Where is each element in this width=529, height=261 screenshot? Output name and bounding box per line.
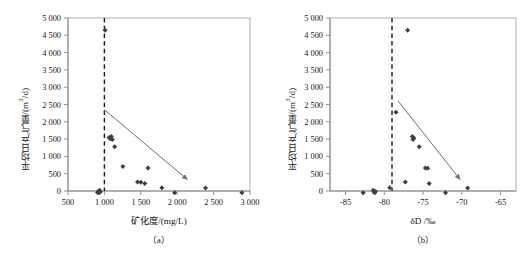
x-tick-label-b-4: -65 — [494, 198, 505, 207]
y-tick-label-b-7: 3 500 — [304, 66, 323, 75]
x-tick-label-a-4: 2 500 — [204, 198, 223, 207]
figure-container: 平均日产气量/(m3/d) — [0, 0, 529, 261]
y-tick-label-b-5: 2 500 — [304, 101, 323, 110]
y-tick-label-b-2: 1 000 — [304, 152, 323, 161]
x-tick-label-a-3: 2 000 — [168, 198, 187, 207]
y-tick-label-a-1: 500 — [48, 170, 61, 179]
plot-frame-b — [330, 18, 516, 191]
x-tick-label-a-5: 3 000 — [241, 198, 260, 207]
x-axis-title-b: δD /‰ — [410, 216, 435, 226]
y-tick-label-a-8: 4 000 — [42, 49, 61, 58]
y-ticks-b — [326, 18, 330, 191]
y-tick-label-b-4: 2 000 — [304, 118, 323, 127]
y-tick-labels-b: 0 500 1 000 1 500 2 000 2 500 3 000 3 50… — [304, 14, 323, 196]
y-tick-label-a-3: 1 500 — [42, 135, 61, 144]
y-tick-label-a-7: 3 500 — [42, 66, 61, 75]
x-ticks-b — [345, 191, 500, 195]
scatter-plot-b: 0 500 1 000 1 500 2 000 2 500 3 000 3 50… — [265, 0, 529, 261]
x-axis-title-a: 矿化度/(mg/L) — [131, 215, 187, 226]
y-tick-labels-a: 0 500 1 000 1 500 2 000 2 500 3 000 3 50… — [42, 14, 61, 196]
x-ticks-a — [68, 191, 250, 195]
y-tick-label-b-1: 500 — [310, 170, 323, 179]
x-tick-label-a-1: 1 000 — [95, 198, 114, 207]
y-tick-label-a-6: 3 000 — [42, 83, 61, 92]
y-tick-label-a-2: 1 000 — [42, 152, 61, 161]
y-tick-label-a-0: 0 — [57, 187, 61, 196]
y-tick-label-a-5: 2 500 — [42, 101, 61, 110]
panel-caption-b: （b） — [411, 235, 433, 245]
y-tick-label-a-4: 2 000 — [42, 118, 61, 127]
x-tick-label-a-0: 500 — [62, 198, 75, 207]
y-tick-label-a-10: 5 000 — [42, 14, 61, 23]
x-tick-label-b-3: -70 — [456, 198, 467, 207]
chart-panel-a: 平均日产气量/(m3/d) — [0, 0, 265, 261]
y-ticks-a — [64, 18, 68, 191]
panel-caption-a: （a） — [148, 235, 170, 245]
y-tick-label-a-9: 4 500 — [42, 31, 61, 40]
scatter-plot-a: 0 500 1 000 1 500 2 000 2 500 3 000 3 50… — [0, 0, 265, 261]
y-tick-label-b-3: 1 500 — [304, 135, 323, 144]
x-tick-label-b-1: -80 — [378, 198, 389, 207]
x-tick-label-b-2: -75 — [417, 198, 428, 207]
y-tick-label-b-0: 0 — [318, 187, 322, 196]
plot-frame-a — [68, 18, 250, 191]
chart-panel-b: 平均日产气量/(m3/d) 0 — [265, 0, 529, 261]
y-tick-label-b-9: 4 500 — [304, 31, 323, 40]
y-tick-label-b-6: 3 000 — [304, 83, 323, 92]
x-tick-label-b-0: -85 — [339, 198, 350, 207]
y-tick-label-b-8: 4 000 — [304, 49, 323, 58]
x-tick-labels-a: 500 1 000 1 500 2 000 2 500 3 000 — [62, 198, 260, 207]
y-tick-label-b-10: 5 000 — [304, 14, 323, 23]
x-tick-labels-b: -85 -80 -75 -70 -65 — [339, 198, 505, 207]
x-tick-label-a-2: 1 500 — [131, 198, 150, 207]
